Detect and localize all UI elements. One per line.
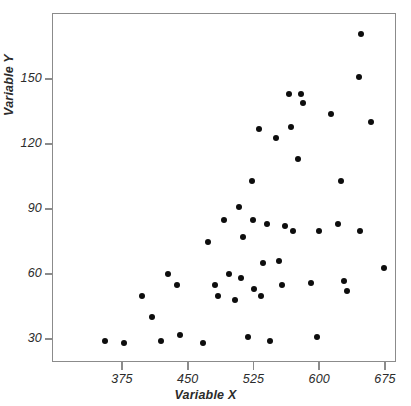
- data-point: [232, 297, 238, 303]
- data-point: [139, 293, 145, 299]
- y-axis-tick: [45, 143, 53, 145]
- y-axis-tick-label: 150: [21, 71, 42, 85]
- data-point: [267, 338, 273, 344]
- data-point: [286, 91, 292, 97]
- data-point: [205, 239, 211, 245]
- x-axis-tick-label: 600: [309, 372, 330, 386]
- x-axis-tick: [187, 362, 189, 370]
- scatter-plot-figure: 306090120150375450525600675 Variable Y V…: [0, 0, 411, 406]
- data-point: [358, 31, 364, 37]
- data-point: [240, 234, 246, 240]
- data-point: [341, 278, 347, 284]
- data-point: [102, 338, 108, 344]
- y-axis-tick-label: 60: [28, 266, 42, 280]
- y-axis-tick: [45, 273, 53, 275]
- x-axis-tick: [121, 362, 123, 370]
- data-point: [174, 282, 180, 288]
- data-point: [328, 111, 334, 117]
- y-axis-label: Variable Y: [2, 25, 16, 145]
- y-axis-tick: [45, 338, 53, 340]
- data-point: [158, 338, 164, 344]
- x-axis-tick-label: 375: [111, 372, 132, 386]
- data-point: [279, 282, 285, 288]
- data-point: [245, 334, 251, 340]
- data-point: [215, 293, 221, 299]
- data-point: [226, 271, 232, 277]
- data-point: [357, 228, 363, 234]
- x-axis-tick-label: 525: [243, 372, 264, 386]
- data-point: [276, 258, 282, 264]
- data-point: [238, 275, 244, 281]
- x-axis-tick: [253, 362, 255, 370]
- data-point: [260, 260, 266, 266]
- data-point: [338, 178, 344, 184]
- y-axis-tick-label: 90: [28, 201, 42, 215]
- data-point: [295, 156, 301, 162]
- x-axis-tick-label: 675: [374, 372, 395, 386]
- data-point: [250, 217, 256, 223]
- x-axis-tick: [384, 362, 386, 370]
- data-point: [298, 91, 304, 97]
- y-axis-tick: [45, 208, 53, 210]
- x-axis-tick: [318, 362, 320, 370]
- data-point: [335, 221, 341, 227]
- data-point: [200, 340, 206, 346]
- data-point: [381, 265, 387, 271]
- y-axis-tick-label: 30: [28, 331, 42, 345]
- data-point: [356, 74, 362, 80]
- data-point: [273, 135, 279, 141]
- data-point: [251, 286, 257, 292]
- y-axis-tick: [45, 78, 53, 80]
- data-point: [258, 293, 264, 299]
- data-point: [165, 271, 171, 277]
- x-axis-label: Variable X: [0, 388, 411, 402]
- data-point: [236, 204, 242, 210]
- data-point: [300, 100, 306, 106]
- data-point: [177, 332, 183, 338]
- data-point: [368, 119, 374, 125]
- plot-area: [52, 13, 396, 362]
- data-point: [264, 221, 270, 227]
- data-point: [308, 280, 314, 286]
- data-point: [344, 288, 350, 294]
- data-point: [316, 228, 322, 234]
- data-point: [288, 124, 294, 130]
- data-point: [212, 282, 218, 288]
- x-axis-tick-label: 450: [177, 372, 198, 386]
- data-point: [149, 314, 155, 320]
- data-point: [256, 126, 262, 132]
- y-axis-tick-label: 120: [21, 136, 42, 150]
- data-point: [282, 223, 288, 229]
- data-point: [121, 340, 127, 346]
- data-point: [314, 334, 320, 340]
- data-point: [290, 228, 296, 234]
- data-point: [221, 217, 227, 223]
- data-point: [249, 178, 255, 184]
